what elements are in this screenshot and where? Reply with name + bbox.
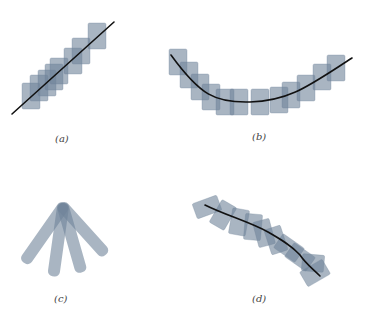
panel-c [19, 200, 110, 277]
panel-a [12, 22, 114, 114]
panel-b-label: (b) [252, 131, 266, 142]
patch-rect [297, 75, 315, 101]
curve-line [12, 22, 114, 114]
patch-rect [88, 23, 106, 49]
figure-canvas: (a) (b) (c) (d) [0, 0, 368, 318]
panel-c-label: (c) [54, 293, 68, 304]
panel-d-label: (d) [252, 293, 266, 304]
panel-b [169, 49, 352, 115]
panel-d [192, 195, 330, 287]
panel-a-label: (a) [55, 133, 69, 144]
